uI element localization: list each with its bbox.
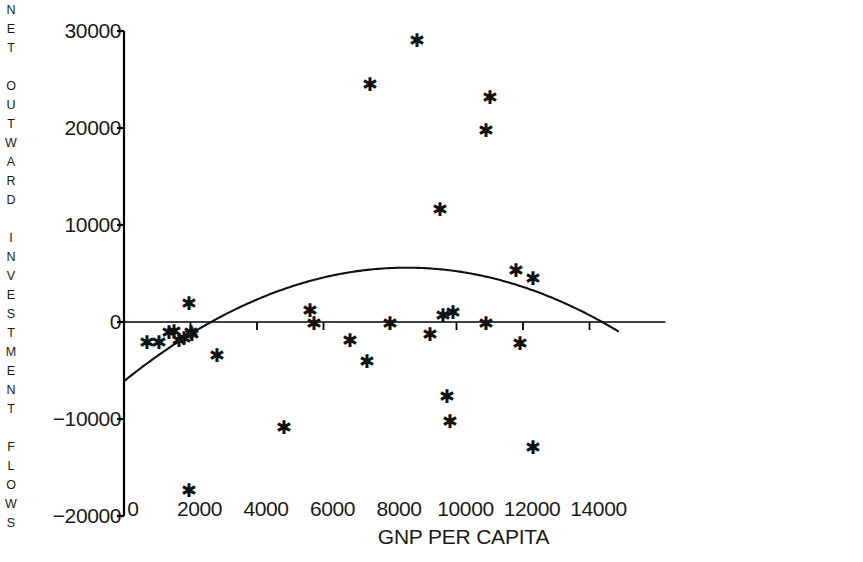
plot-area: ✱✱✱✱✱✱✱✱✱✱✱✱✱✱✱✱✱✱✱✱✱✱✱✱✱✱✱✱✱✱✱✱ [0, 0, 863, 562]
scatter-point: ✱ [181, 293, 197, 314]
scatter-points-layer: ✱✱✱✱✱✱✱✱✱✱✱✱✱✱✱✱✱✱✱✱✱✱✱✱✱✱✱✱✱✱✱✱ [139, 30, 541, 501]
scatter-point: ✱ [306, 313, 322, 334]
scatter-point: ✱ [209, 345, 225, 366]
scatter-point: ✱ [409, 30, 425, 51]
chart-container: NETOUTWARDINVESTMENTFLOWS −20000−1000001… [0, 0, 863, 562]
scatter-point: ✱ [442, 411, 458, 432]
scatter-point: ✱ [342, 330, 358, 351]
scatter-point: ✱ [359, 351, 375, 372]
scatter-point: ✱ [478, 120, 494, 141]
scatter-point: ✱ [181, 480, 197, 501]
scatter-point: ✱ [382, 313, 398, 334]
scatter-point: ✱ [478, 313, 494, 334]
scatter-point: ✱ [482, 87, 498, 108]
scatter-point: ✱ [508, 260, 524, 281]
scatter-point: ✱ [432, 199, 448, 220]
scatter-point: ✱ [422, 324, 438, 345]
scatter-point: ✱ [439, 386, 455, 407]
axis-layer [117, 31, 665, 516]
scatter-point: ✱ [525, 437, 541, 458]
scatter-point: ✱ [525, 268, 541, 289]
scatter-point: ✱ [445, 302, 461, 323]
scatter-point: ✱ [184, 324, 200, 345]
scatter-point: ✱ [276, 417, 292, 438]
scatter-point: ✱ [362, 74, 378, 95]
scatter-point: ✱ [512, 333, 528, 354]
